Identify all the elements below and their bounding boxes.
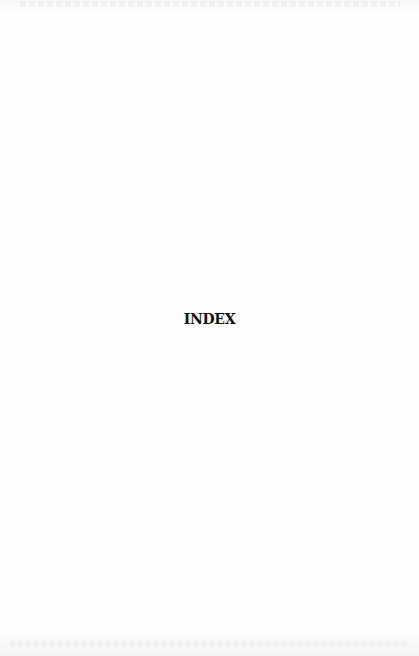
show-through-text-bottom [10, 640, 410, 646]
section-heading: INDEX [0, 311, 419, 327]
show-through-text-top [20, 1, 400, 7]
book-page: INDEX [0, 0, 419, 656]
